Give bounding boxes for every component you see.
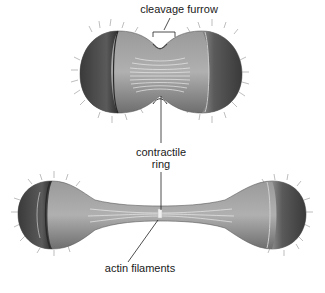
cleavage-furrow-leader xyxy=(164,18,170,30)
cytokinesis-diagram: cleavage furrow contractile ring actin f… xyxy=(0,0,325,293)
bottom-cell xyxy=(11,171,313,256)
contractile-ring-label-line1: contractile xyxy=(126,146,196,158)
actin-filaments-label: actin filaments xyxy=(95,262,185,274)
cleavage-furrow-label: cleavage furrow xyxy=(137,3,221,15)
contractile-ring-label: contractile ring xyxy=(126,146,196,170)
top-cell xyxy=(71,19,249,123)
cleavage-furrow-bracket xyxy=(153,32,175,37)
contractile-ring-label-line2: ring xyxy=(126,158,196,170)
contractile-ring-marker xyxy=(158,209,162,218)
actin-filaments-leader xyxy=(128,220,158,262)
